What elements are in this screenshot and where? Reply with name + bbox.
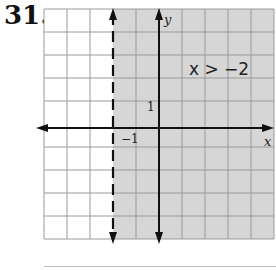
shaded-region [113,9,274,239]
inequality-label: x > −2 [189,59,249,79]
x-axis-label: x [264,134,272,149]
x-tick-label-neg1: −1 [121,132,139,146]
y-axis-label: y [163,12,172,27]
x-axis-left-arrow-icon [36,124,48,132]
y-tick-label-1: 1 [147,100,155,114]
divider [44,266,276,267]
unshaded-region [44,9,113,239]
coordinate-graph: y x 1 −1 x > −2 [0,0,276,270]
